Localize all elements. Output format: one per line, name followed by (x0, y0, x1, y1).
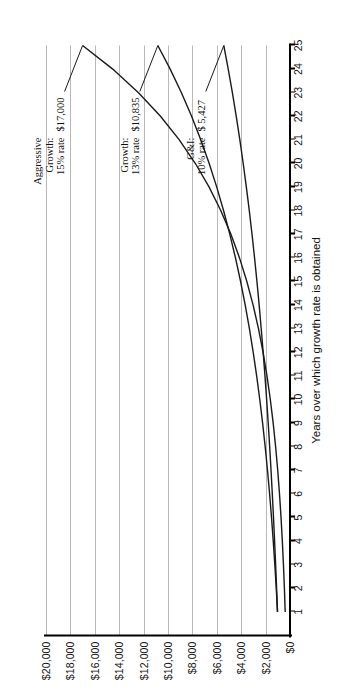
y-axis-tick-label: $2,000 (260, 641, 272, 674)
x-axis-tick-label: 11 (292, 370, 304, 381)
x-axis-tick-label: 24 (292, 63, 304, 75)
y-axis-tick-label: $0 (284, 641, 296, 653)
series-line-aggressive-growth (83, 45, 286, 611)
leader-line (206, 45, 224, 91)
y-axis-labels: $0$2,000$4,000$6,000$8,000$10,000$12,000… (46, 637, 290, 695)
plot-area (46, 45, 290, 635)
x-axis-tick-label: 8 (292, 443, 304, 449)
series-line-g-i (224, 45, 278, 611)
x-axis-tick-label: 18 (292, 204, 304, 216)
gi-annotation: G&I: 10% rate (185, 137, 208, 195)
x-axis-title: Years over which growth rate is obtained (310, 45, 322, 635)
x-axis-tick-label: 23 (292, 86, 304, 98)
x-axis-tick-label: 22 (292, 110, 304, 122)
y-axis-tick-label: $16,000 (89, 641, 101, 680)
y-axis-tick-label: $4,000 (235, 641, 247, 674)
y-axis-tick-label: $12,000 (138, 641, 150, 680)
x-axis-tick-label: 25 (292, 39, 304, 51)
growth-rate-chart: $0$2,000$4,000$6,000$8,000$10,000$12,000… (0, 0, 342, 695)
x-axis-labels: 1234567891011121314151617181920212223242… (292, 45, 308, 635)
x-axis-tick-label: 13 (292, 322, 304, 334)
series-line-growth (158, 45, 278, 611)
leader-line (65, 45, 83, 91)
x-axis-tick-label: 7 (292, 467, 304, 473)
x-axis-tick-label: 17 (292, 228, 304, 240)
x-axis-tick-label: 14 (292, 299, 304, 311)
x-axis-tick-label: 2 (292, 585, 304, 591)
growth-value-label: $10,835 (130, 97, 142, 131)
aggressive-growth-value-label: $17,000 (55, 97, 67, 131)
x-axis-tick-label: 15 (292, 275, 304, 287)
x-axis-tick-label: 3 (292, 561, 304, 567)
x-axis-tick-label: 20 (292, 157, 304, 169)
rotated-figure-frame: $0$2,000$4,000$6,000$8,000$10,000$12,000… (0, 0, 342, 695)
y-axis-tick-label: $10,000 (162, 641, 174, 680)
x-axis-tick-label: 19 (292, 181, 304, 193)
x-axis-tick-label: 1 (292, 608, 304, 614)
x-axis-tick-label: 6 (292, 490, 304, 496)
growth-annotation: Growth: 13% rate (119, 137, 142, 195)
x-axis-tick-label: 10 (292, 393, 304, 405)
x-axis-tick-label: 12 (292, 346, 304, 358)
aggressive-growth-annotation: Aggressive Growth: 15% rate (32, 137, 67, 195)
y-axis-tick-label: $18,000 (64, 641, 76, 680)
x-axis-tick-label: 21 (292, 134, 304, 146)
x-axis-tick-label: 16 (292, 252, 304, 264)
y-axis-tick-label: $8,000 (186, 641, 198, 674)
y-axis-tick-label: $6,000 (211, 641, 223, 674)
series-curves (46, 45, 290, 635)
y-axis-tick-label: $20,000 (40, 641, 52, 680)
x-axis-tick-label: 9 (292, 420, 304, 426)
gi-value-label: $ 5,427 (196, 100, 208, 132)
x-axis-tick-label: 5 (292, 514, 304, 520)
x-axis-tick-label: 4 (292, 538, 304, 544)
y-axis-tick-label: $14,000 (113, 641, 125, 680)
leader-line (140, 45, 158, 91)
